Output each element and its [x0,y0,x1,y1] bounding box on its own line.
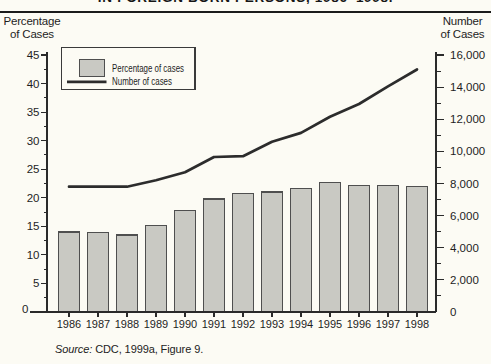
bar-1993 [262,192,283,312]
left-axis-tick-label-35: 35 [27,106,40,118]
legend-bar-swatch [80,60,105,77]
bar-1987 [88,233,109,312]
x-axis-label-1994: 1994 [289,318,313,330]
right-axis-tick-label-6000: 6,000 [450,210,479,222]
x-axis-label-1990: 1990 [173,318,197,330]
x-axis-label-1993: 1993 [260,318,284,330]
left-axis-tick-label-15: 15 [27,220,40,232]
bar-1998 [407,186,428,312]
x-axis-label-1997: 1997 [376,318,400,330]
figure-page: IN FOREIGN BORN PERSONS, 1986–1998. Perc… [0,0,491,364]
x-axis-label-1991: 1991 [202,318,226,330]
right-axis-tick-label-12000: 12,000 [450,113,485,125]
x-axis-label-1992: 1992 [231,318,255,330]
right-axis-tick-label-10000: 10,000 [450,145,485,157]
x-axis-label-1995: 1995 [318,318,342,330]
left-axis-tick-label-0: 0 [22,303,28,315]
bar-1996 [349,186,370,312]
legend-bar-label: Percentage of cases [112,62,184,74]
x-axis-label-1996: 1996 [347,318,371,330]
x-axis-label-1986: 1986 [57,318,81,330]
left-axis-tick-label-10: 10 [27,249,40,261]
x-axis-label-1987: 1987 [86,318,110,330]
source-citation: CDC, 1999a, Figure 9. [92,343,203,355]
source-note: Source: CDC, 1999a, Figure 9. [55,343,203,355]
bar-1990 [175,210,196,312]
bar-1995 [320,182,341,312]
right-axis-tick-label-0: 0 [450,306,456,318]
bar-1992 [233,194,254,312]
right-axis-tick-label-16000: 16,000 [450,49,485,61]
left-axis-tick-label-20: 20 [27,192,40,204]
bar-1986 [59,232,80,312]
legend-line-label: Number of cases [112,75,172,87]
bar-1989 [146,225,167,312]
x-axis-label-1989: 1989 [144,318,168,330]
left-axis-tick-label-5: 5 [33,277,39,289]
bar-1997 [378,186,399,312]
bar-1988 [117,235,138,312]
right-axis-tick-label-14000: 14,000 [450,81,485,93]
bar-1991 [204,199,225,312]
x-axis-label-1998: 1998 [405,318,429,330]
left-axis-tick-label-40: 40 [27,78,40,90]
source-label: Source: [55,343,92,355]
left-axis-tick-label-25: 25 [27,163,40,175]
right-axis-tick-label-2000: 2,000 [450,274,479,286]
left-axis-tick-label-45: 45 [27,49,40,61]
x-axis-label-1988: 1988 [115,318,139,330]
right-axis-tick-label-8000: 8,000 [450,178,479,190]
right-axis-tick-label-4000: 4,000 [450,242,479,254]
bar-1994 [291,189,312,312]
chart-canvas: 05101520253035404502,0004,0006,0008,0001… [0,0,491,364]
left-axis-tick-label-30: 30 [27,135,40,147]
